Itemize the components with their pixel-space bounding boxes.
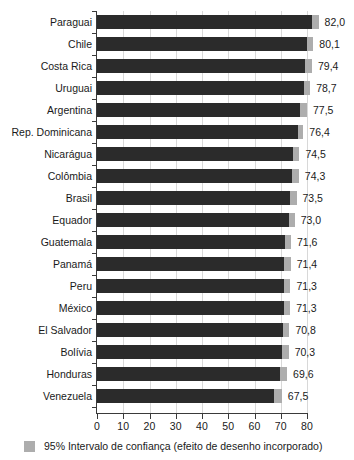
bar-value-label: 74,5 — [305, 143, 325, 165]
bar-track — [97, 323, 289, 337]
bar-value-label: 74,3 — [305, 165, 325, 187]
category-label: Equador — [52, 209, 92, 231]
category-label: Uruguai — [55, 77, 92, 99]
bar-row: Equador73,0 — [97, 209, 307, 231]
bar-segment-confidence-interval — [289, 213, 295, 227]
bar-row: Chile80,1 — [97, 33, 307, 55]
bar-row: Bolívia70,3 — [97, 341, 307, 363]
bar-row: Venezuela67,5 — [97, 385, 307, 407]
y-axis-tick — [92, 33, 97, 34]
bar-segment-confidence-interval — [300, 103, 307, 117]
bar-segment-confidence-interval — [284, 301, 290, 315]
category-label: Guatemala — [41, 231, 92, 253]
bar-row: Rep. Dominicana76,4 — [97, 121, 307, 143]
y-axis-tick — [92, 55, 97, 56]
bar-value-label: 71,3 — [296, 275, 316, 297]
y-axis-tick — [92, 143, 97, 144]
bar-track — [97, 257, 291, 271]
category-label: Rep. Dominicana — [11, 121, 92, 143]
bar-track — [97, 389, 282, 403]
bar-segment-estimate — [97, 301, 284, 315]
bar-segment-confidence-interval — [305, 59, 312, 73]
bar-value-label: 79,4 — [318, 55, 338, 77]
x-axis-tick — [307, 414, 308, 419]
category-label: Costa Rica — [41, 55, 92, 77]
y-axis-tick — [92, 341, 97, 342]
bar-value-label: 67,5 — [288, 385, 308, 407]
bar-value-label: 71,3 — [296, 297, 316, 319]
x-axis-tick — [176, 414, 177, 419]
x-axis-tick-label: 80 — [292, 420, 322, 432]
legend: 95% Intervalo de confiança (efeito de de… — [24, 440, 322, 452]
bar-track — [97, 191, 297, 205]
category-label: Colômbia — [48, 165, 92, 187]
bar-value-label: 77,5 — [313, 99, 333, 121]
y-axis-tick — [92, 275, 97, 276]
category-label: Honduras — [46, 363, 92, 385]
bar-track — [97, 367, 287, 381]
legend-label-ci: 95% Intervalo de confiança (efeito de de… — [44, 440, 322, 452]
bar-value-label: 71,6 — [297, 231, 317, 253]
y-axis-tick — [92, 407, 97, 408]
bar-value-label: 73,5 — [303, 187, 323, 209]
bar-row: El Salvador70,8 — [97, 319, 307, 341]
bar-value-label: 70,8 — [295, 319, 315, 341]
bar-segment-confidence-interval — [284, 279, 290, 293]
bar-segment-confidence-interval — [290, 191, 297, 205]
bar-row: Uruguai78,7 — [97, 77, 307, 99]
legend-swatch-ci — [24, 441, 35, 452]
plot-area: Paraguai82,0Chile80,1Costa Rica79,4Urugu… — [97, 11, 307, 413]
bar-value-label: 82,0 — [325, 11, 345, 33]
category-label: Peru — [70, 275, 92, 297]
bar-track — [97, 147, 299, 161]
bar-segment-estimate — [97, 367, 280, 381]
bar-segment-estimate — [97, 169, 292, 183]
bar-track — [97, 15, 319, 29]
bar-segment-confidence-interval — [293, 147, 300, 161]
bar-track — [97, 345, 289, 359]
y-axis-tick — [92, 297, 97, 298]
bar-segment-estimate — [97, 81, 304, 95]
x-axis-tick — [150, 414, 151, 419]
bar-segment-estimate — [97, 59, 305, 73]
bar-segment-confidence-interval — [304, 81, 311, 95]
bar-row: Guatemala71,6 — [97, 231, 307, 253]
bar-row: México71,3 — [97, 297, 307, 319]
bar-track — [97, 279, 290, 293]
bar-value-label: 73,0 — [301, 209, 321, 231]
bar-segment-confidence-interval — [282, 345, 289, 359]
x-axis-tick — [228, 414, 229, 419]
bar-segment-confidence-interval — [283, 323, 290, 337]
y-axis-tick — [92, 11, 97, 12]
bar-segment-confidence-interval — [312, 15, 318, 29]
bar-segment-confidence-interval — [292, 169, 299, 183]
bar-track — [97, 59, 312, 73]
bar-segment-estimate — [97, 147, 293, 161]
y-axis-tick — [92, 121, 97, 122]
category-label: Venezuela — [43, 385, 92, 407]
bar-row: Colômbia74,3 — [97, 165, 307, 187]
y-axis-tick — [92, 319, 97, 320]
bar-track — [97, 81, 310, 95]
bar-segment-confidence-interval — [285, 235, 291, 249]
category-label: Brasil — [66, 187, 92, 209]
y-axis-tick — [92, 209, 97, 210]
bar-row: Argentina77,5 — [97, 99, 307, 121]
bar-row: Honduras69,6 — [97, 363, 307, 385]
x-axis-tick — [123, 414, 124, 419]
bar-value-label: 76,4 — [309, 121, 329, 143]
bar-chart: Paraguai82,0Chile80,1Costa Rica79,4Urugu… — [0, 0, 354, 460]
bar-value-label: 69,6 — [293, 363, 313, 385]
x-axis-tick — [281, 414, 282, 419]
bar-segment-confidence-interval — [298, 125, 304, 139]
bar-segment-confidence-interval — [284, 257, 290, 271]
bar-segment-confidence-interval — [280, 367, 287, 381]
y-axis-tick — [92, 363, 97, 364]
bar-row: Brasil73,5 — [97, 187, 307, 209]
category-label: Bolívia — [60, 341, 92, 363]
y-axis-tick — [92, 231, 97, 232]
bar-track — [97, 235, 291, 249]
bar-row: Panamá71,4 — [97, 253, 307, 275]
bar-segment-estimate — [97, 213, 289, 227]
bar-segment-estimate — [97, 103, 300, 117]
